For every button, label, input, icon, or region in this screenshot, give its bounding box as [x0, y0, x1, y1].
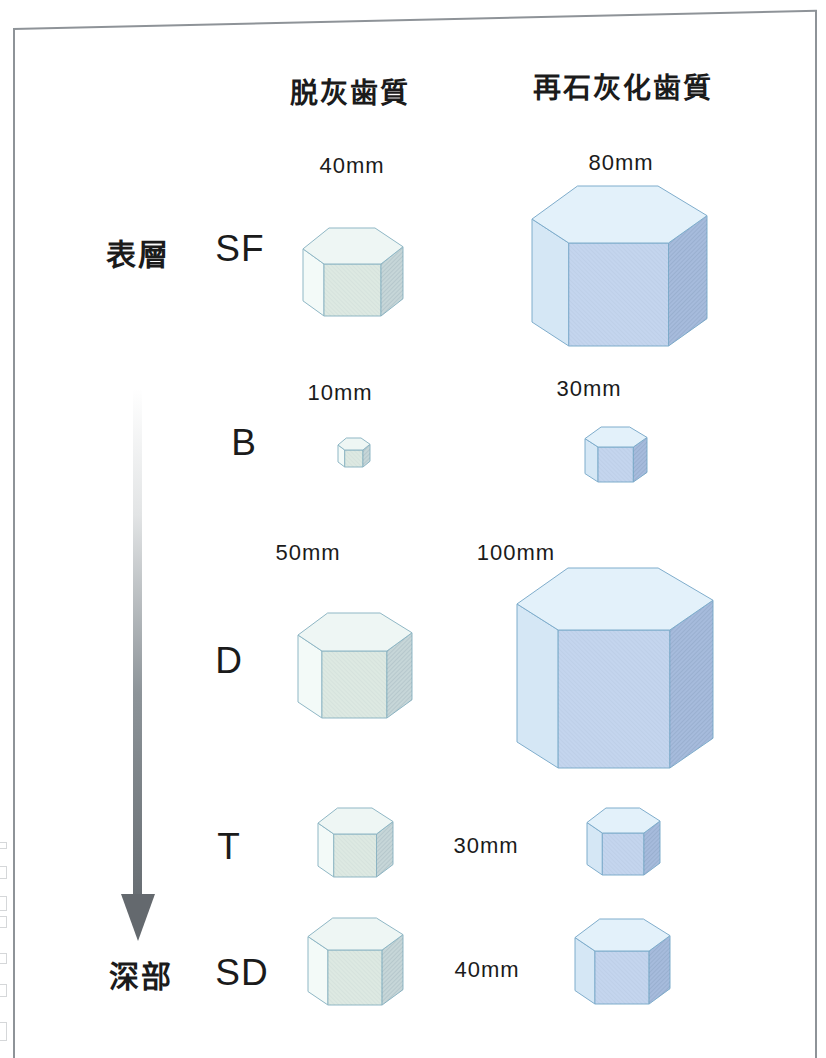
row-label-D: D [215, 640, 243, 682]
size-label-D-demineralized: 50mm [275, 540, 340, 566]
crystal-SF-demineralized [303, 228, 403, 316]
margin-text-fragment [0, 953, 7, 964]
crystal-D-remineralized [517, 568, 713, 768]
size-label-SF-remineralized: 80mm [588, 150, 653, 176]
scanned-figure-page: 脱灰歯質 再石灰化歯質 表層 深部 SF40mm80mmB10mm30mmD50… [0, 0, 826, 1058]
margin-text-fragment [0, 984, 7, 997]
row-label-T: T [217, 826, 241, 868]
figure-border-top [13, 10, 817, 30]
row-label-SD: SD [215, 952, 268, 994]
column-header-remineralized: 再石灰化歯質 [533, 66, 713, 106]
size-label-SD-shared: 40mm [454, 957, 519, 983]
size-label-B-demineralized: 10mm [307, 380, 372, 406]
deep-layer-label: 深部 [109, 952, 173, 996]
figure-border-right [815, 10, 817, 1058]
figure-border-left [13, 28, 15, 1058]
crystal-T-remineralized [587, 808, 660, 875]
margin-text-fragment [0, 916, 7, 928]
depth-arrow-head [121, 894, 155, 941]
margin-text-fragment [0, 866, 7, 879]
row-label-B: B [231, 422, 257, 464]
crystal-T-demineralized [318, 808, 393, 877]
crystal-B-remineralized [585, 427, 647, 482]
crystal-SD-remineralized [575, 919, 670, 1004]
crystal-SD-demineralized [308, 918, 403, 1005]
row-label-SF: SF [215, 228, 264, 270]
size-label-SF-demineralized: 40mm [319, 153, 384, 179]
depth-arrow-shaft [133, 388, 142, 896]
margin-text-fragment [0, 842, 7, 849]
margin-text-fragment [0, 896, 7, 911]
size-label-T-shared: 30mm [453, 833, 518, 859]
size-label-D-remineralized: 100mm [477, 540, 555, 566]
crystal-SF-remineralized [532, 186, 707, 346]
margin-text-fragment [0, 1022, 7, 1041]
size-label-B-remineralized: 30mm [556, 376, 621, 402]
column-header-demineralized: 脱灰歯質 [290, 71, 410, 111]
crystal-B-demineralized [338, 438, 370, 467]
surface-layer-label: 表層 [106, 230, 170, 274]
crystal-D-demineralized [298, 613, 412, 718]
